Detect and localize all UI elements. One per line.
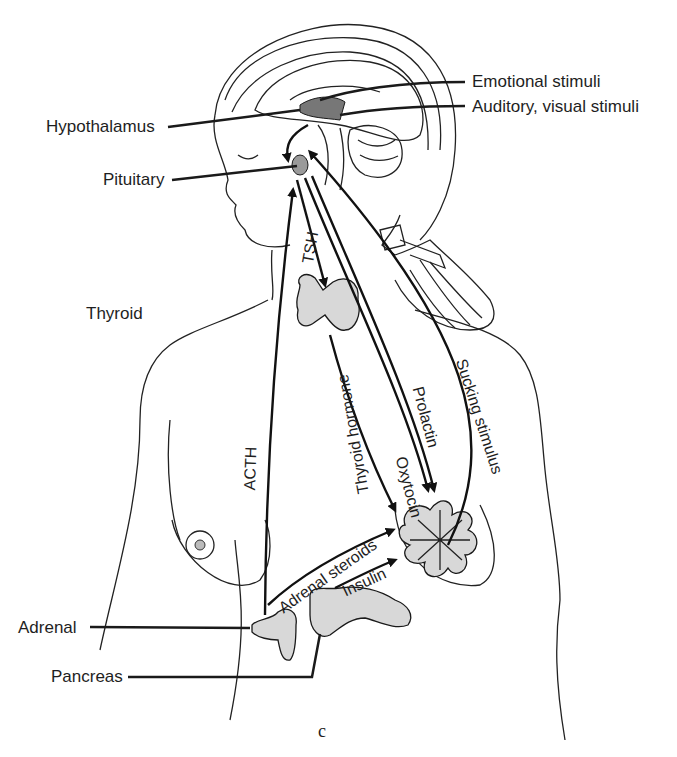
label-emotional-stimuli: Emotional stimuli [472,73,601,90]
ponytail [380,215,494,330]
label-pituitary: Pituitary [103,171,164,188]
label-auditory-visual-stimuli: Auditory, visual stimuli [472,98,639,115]
brain [255,60,423,190]
adrenal-gland [252,609,296,660]
label-adrenal: Adrenal [18,619,77,636]
label-thyroid: Thyroid [86,305,143,322]
label-hypothalamus: Hypothalamus [46,118,155,135]
label-pancreas: Pancreas [51,668,123,685]
torso-outline [100,300,565,740]
endocrine-lactation-diagram: Hypothalamus Pituitary Thyroid Adrenal P… [0,0,677,757]
label-acth: ACTH [242,446,260,490]
panel-mark: c [318,722,326,740]
pancreas-gland [310,587,411,636]
